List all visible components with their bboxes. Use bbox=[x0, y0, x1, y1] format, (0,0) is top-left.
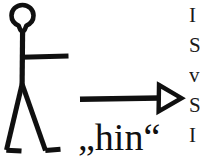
edge-text-fragment: v bbox=[189, 60, 203, 90]
edge-text-fragment: S bbox=[189, 90, 203, 120]
edge-text-fragment: I bbox=[189, 0, 203, 30]
caption-hin: „hin“ bbox=[78, 114, 186, 160]
stick-figure-legs bbox=[7, 84, 46, 151]
cropped-edge-text: I S v S I bbox=[189, 0, 203, 161]
edge-text-fragment: S bbox=[189, 30, 203, 60]
right-arrow bbox=[80, 85, 182, 112]
illustration-canvas: „hin“ I S v S I bbox=[0, 0, 203, 161]
stick-figure-arm bbox=[21, 56, 69, 57]
stick-figure-feet bbox=[6, 149, 60, 151]
edge-text-fragment: I bbox=[189, 120, 203, 150]
stick-figure-head bbox=[12, 5, 34, 31]
